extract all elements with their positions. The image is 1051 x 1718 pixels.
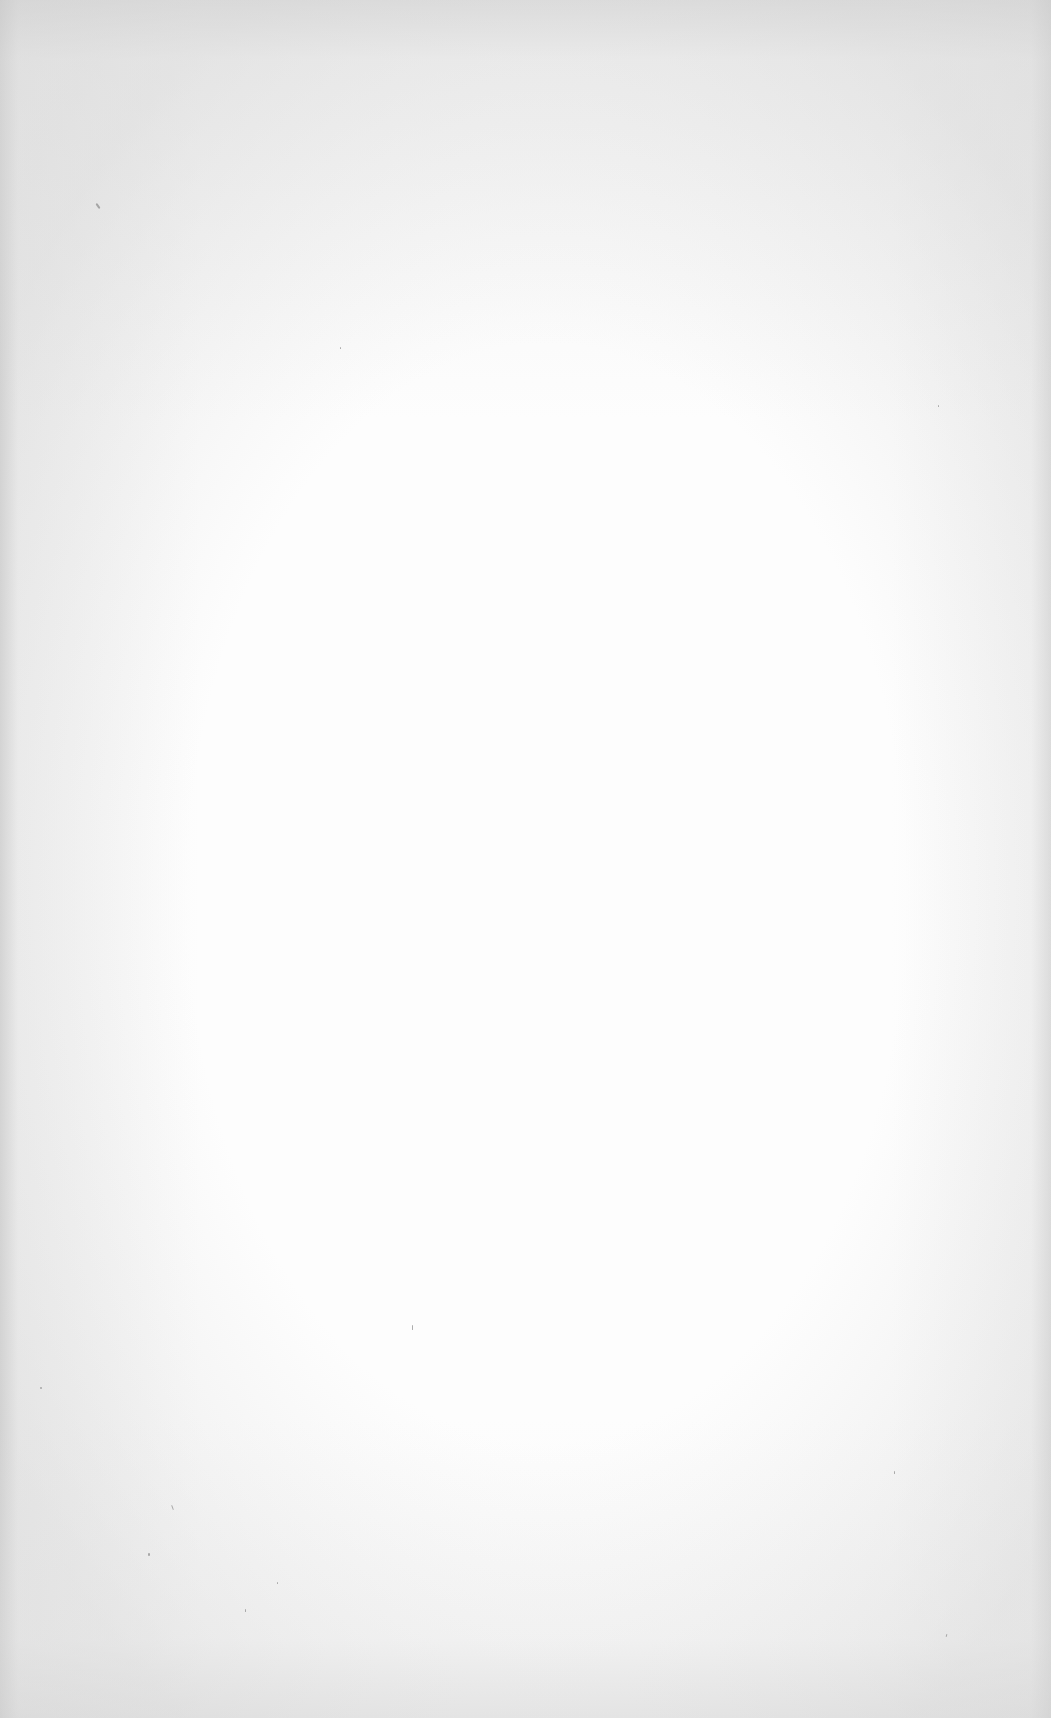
dust-speck — [40, 1387, 42, 1389]
dust-speck — [95, 203, 100, 209]
dust-speck — [412, 1325, 413, 1330]
blank-document-page — [0, 0, 1051, 1718]
dust-speck — [340, 347, 341, 349]
dust-speck — [277, 1582, 278, 1584]
dust-speck — [148, 1553, 150, 1556]
dust-speck — [245, 1609, 246, 1612]
dust-speck — [938, 405, 939, 407]
dust-speck — [171, 1505, 174, 1510]
dust-speck — [946, 1634, 948, 1637]
scan-shading — [0, 0, 1051, 1718]
dust-speck — [894, 1471, 895, 1474]
